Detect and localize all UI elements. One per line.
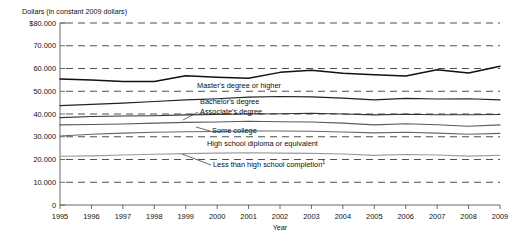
chart-background [0, 0, 514, 248]
x-axis-tick-label: 2001 [240, 212, 256, 221]
x-axis-tick-label: 2005 [366, 212, 382, 221]
x-axis-tick-labels: 1995199619971998199920002001200220032004… [52, 212, 508, 221]
x-axis-tick-label: 1996 [83, 212, 99, 221]
x-axis-tick-label: 1999 [177, 212, 193, 221]
y-axis-tick-label: 40.000 [33, 110, 56, 119]
x-axis-tick-label: 2009 [492, 212, 508, 221]
series-label: Master's degree or higher [197, 81, 282, 90]
x-axis-title: Year [273, 223, 288, 232]
y-axis-tick-label: 0 [52, 201, 56, 210]
x-axis-tick-label: 2004 [335, 212, 351, 221]
x-axis-tick-label: 2002 [272, 212, 288, 221]
y-axis-tick-label: 70.000 [33, 41, 56, 50]
x-axis-tick-label: 2008 [460, 212, 476, 221]
x-axis-tick-label: 2000 [209, 212, 225, 221]
line-chart: Dollars (in constant 2009 dollars) $80.0… [0, 0, 514, 248]
series-label: Associate's degree [200, 107, 262, 116]
y-axis-tick-label: 20.000 [33, 155, 56, 164]
x-axis-tick-label: 2007 [429, 212, 445, 221]
y-axis-tick-label: 50.000 [33, 87, 56, 96]
footnote-marker: 1 [322, 159, 325, 165]
chart-container: Dollars (in constant 2009 dollars) $80.0… [0, 0, 514, 248]
x-axis-tick-label: 2003 [303, 212, 319, 221]
x-axis-tick-label: 1998 [146, 212, 162, 221]
x-axis-tick-label: 1995 [52, 212, 68, 221]
series-label: Less than high school completion1 [213, 159, 325, 169]
y-axis-title: Dollars (in constant 2009 dollars) [22, 7, 127, 16]
y-axis-tick-label: $80.000 [29, 19, 56, 28]
series-label: High school diploma or equivalent [207, 139, 318, 148]
series-label: Bachelor's degree [200, 97, 259, 106]
y-axis-tick-label: 60.000 [33, 64, 56, 73]
x-axis-tick-label: 1997 [115, 212, 131, 221]
x-axis-tick-label: 2006 [397, 212, 413, 221]
y-axis-tick-label: 10.000 [33, 178, 56, 187]
y-axis-tick-labels: $80.00070.00060.00050.00040.00030.00020.… [29, 19, 56, 210]
series-label: Some college [212, 126, 257, 135]
y-axis-tick-label: 30.000 [33, 132, 56, 141]
